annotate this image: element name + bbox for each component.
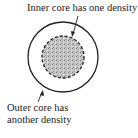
outer-core-label-line2: another density (7, 114, 71, 126)
outer-core-label-line1: Outer core has (7, 102, 68, 114)
inner-arrowhead-icon (71, 31, 75, 37)
inner-core-circle (42, 36, 84, 78)
outer-arrowhead-icon (40, 90, 44, 96)
